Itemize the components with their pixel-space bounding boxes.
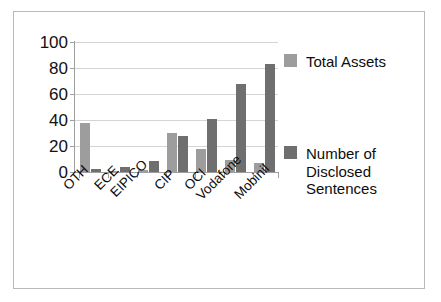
bar-group-eipico xyxy=(137,42,166,172)
y-axis-tick-labels: 100 80 60 40 20 0 xyxy=(30,0,68,302)
x-tick-mark-7 xyxy=(278,173,279,178)
bar-group-oci xyxy=(195,42,224,172)
y-axis-line xyxy=(74,41,75,173)
bar-mobinil-disclosed-sentences[interactable] xyxy=(265,64,275,172)
chart-screenshot: 100 80 60 40 20 0 xyxy=(0,0,441,302)
legend-label-total-assets: Total Assets xyxy=(306,53,386,71)
bar-group-mobinil xyxy=(253,42,282,172)
y-tick-label-60: 60 xyxy=(49,86,68,103)
bar-group-ece xyxy=(108,42,137,172)
bar-cip-total-assets[interactable] xyxy=(167,133,177,172)
y-tick-label-100: 100 xyxy=(40,34,68,51)
bar-eipico-disclosed-sentences[interactable] xyxy=(149,161,159,172)
legend-swatch-total-assets xyxy=(284,54,297,67)
bar-group-vodafone xyxy=(224,42,253,172)
legend-label-disclosed-sentences: Number of Disclosed Sentences xyxy=(306,145,377,198)
legend-swatch-disclosed-sentences xyxy=(284,146,297,159)
bar-cip-disclosed-sentences[interactable] xyxy=(178,136,188,172)
y-tick-label-80: 80 xyxy=(49,60,68,77)
bar-group-oth xyxy=(79,42,108,172)
bar-oci-disclosed-sentences[interactable] xyxy=(207,119,217,172)
bar-group-cip xyxy=(166,42,195,172)
plot-area xyxy=(75,42,278,172)
y-tick-label-40: 40 xyxy=(49,112,68,129)
y-tick-label-20: 20 xyxy=(49,138,68,155)
